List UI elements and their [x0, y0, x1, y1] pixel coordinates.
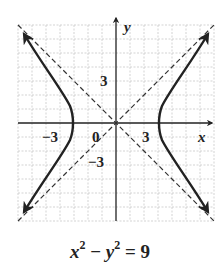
eq-equals: = 9: [120, 241, 150, 262]
eq-x-exp: 2: [79, 238, 85, 252]
equation-caption: x2 − y2 = 9: [0, 240, 220, 263]
hyperbola-graph: y x 3 −3 −3 3 0: [0, 0, 220, 240]
x-axis-label: x: [197, 129, 206, 145]
eq-y: y: [106, 241, 114, 262]
x-tick-3: 3: [142, 129, 150, 145]
x-tick-neg3: −3: [42, 129, 58, 145]
y-axis-label: y: [122, 19, 131, 35]
y-tick-3: 3: [100, 73, 108, 89]
y-tick-neg3: −3: [88, 154, 104, 170]
origin-label: 0: [92, 129, 100, 145]
eq-y-exp: 2: [114, 238, 120, 252]
eq-minus: −: [85, 241, 105, 262]
